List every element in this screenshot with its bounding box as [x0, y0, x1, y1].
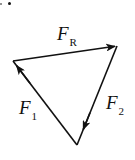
vector-f2-arrowhead — [83, 113, 90, 130]
label-f1-sub: 1 — [32, 110, 38, 122]
label-fr-main: F — [57, 23, 69, 44]
corner-dot — [0, 3, 2, 5]
vector-fr-line — [13, 46, 115, 61]
label-fr-sub: R — [70, 36, 77, 48]
force-vector-triangle-diagram: FR F1 F2 — [0, 0, 135, 160]
label-fr: FR — [57, 24, 77, 43]
label-f2: F2 — [106, 93, 124, 112]
vector-f1-arrowhead — [17, 66, 31, 84]
label-f1-main: F — [19, 97, 31, 118]
label-f1: F1 — [19, 98, 37, 117]
label-f2-main: F — [106, 92, 118, 113]
label-f2-sub: 2 — [119, 105, 125, 117]
corner-dot — [8, 2, 11, 5]
